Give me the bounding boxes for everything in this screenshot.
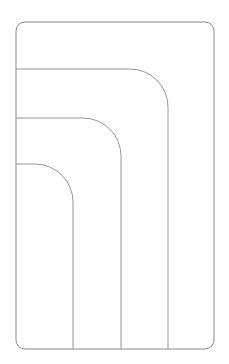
canvas-background bbox=[0, 0, 229, 364]
nested-corners-drawing bbox=[0, 0, 229, 364]
diagram-canvas bbox=[0, 0, 229, 364]
